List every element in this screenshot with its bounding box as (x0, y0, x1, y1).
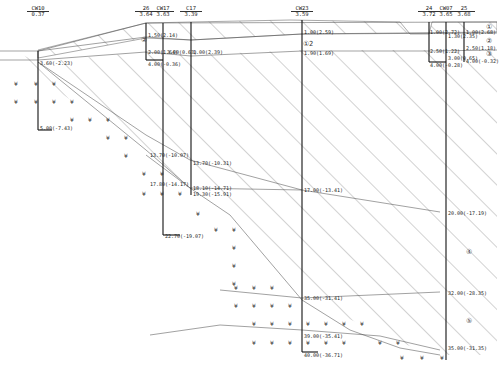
svg-text:¥: ¥ (214, 226, 218, 233)
depth-label: 4.00(-0.28) (430, 62, 463, 68)
depth-label: 22.70(-19.07) (165, 233, 204, 239)
depth-label: 13.70(-10.31) (193, 160, 232, 166)
depth-label: 4.00(-0.32) (466, 58, 499, 64)
svg-text:¥: ¥ (234, 284, 238, 291)
svg-text:¥: ¥ (420, 354, 424, 361)
svg-text:¥: ¥ (34, 98, 38, 105)
depth-label: 35.00(-31.41) (304, 295, 343, 301)
svg-text:¥: ¥ (52, 98, 56, 105)
depth-label: 1.00(2.68) (466, 29, 496, 35)
depth-label: 1.90(1.69) (304, 50, 334, 56)
svg-text:¥: ¥ (270, 284, 274, 291)
depth-label: 4.00(-0.36) (148, 61, 181, 67)
borehole-elevation: 3.63 (152, 11, 174, 18)
depth-label: 17.00(-13.41) (304, 187, 343, 193)
depth-label: 1.00(2.39) (193, 49, 223, 55)
svg-text:¥: ¥ (342, 320, 346, 327)
layer-label: ④ (466, 248, 472, 256)
svg-text:¥: ¥ (306, 320, 310, 327)
borehole-elevation: 3.68 (453, 11, 475, 18)
svg-text:¥: ¥ (70, 98, 74, 105)
svg-text:¥: ¥ (160, 170, 164, 177)
svg-text:¥: ¥ (142, 190, 146, 197)
borehole-elevation: 3.39 (180, 11, 202, 18)
svg-text:¥: ¥ (378, 339, 382, 346)
depth-label: 17.80(-14.17) (150, 181, 189, 187)
layer-label: ② (141, 36, 147, 44)
svg-text:¥: ¥ (142, 170, 146, 177)
svg-text:¥: ¥ (306, 339, 310, 346)
depth-label: 1.50(2.14) (148, 32, 178, 38)
layer-label: ①2 (303, 40, 313, 48)
svg-text:¥: ¥ (270, 320, 274, 327)
svg-text:¥: ¥ (34, 80, 38, 87)
svg-text:¥: ¥ (52, 80, 56, 87)
borehole-elevation: 3.59 (291, 11, 313, 18)
layer-label: ⑤ (466, 317, 472, 325)
svg-text:¥: ¥ (324, 320, 328, 327)
svg-text:¥: ¥ (252, 320, 256, 327)
depth-label: 19.30(-15.91) (193, 191, 232, 197)
svg-text:¥: ¥ (106, 116, 110, 123)
depth-label: 39.00(-35.41) (304, 333, 343, 339)
layer-label: ② (486, 37, 492, 45)
svg-text:¥: ¥ (252, 284, 256, 291)
depth-label: 2.50(1.18) (466, 45, 496, 51)
depth-label: 3.60(-2.23) (40, 60, 73, 66)
svg-text:¥: ¥ (324, 339, 328, 346)
svg-text:¥: ¥ (288, 320, 292, 327)
svg-text:¥: ¥ (178, 190, 182, 197)
svg-text:¥: ¥ (160, 190, 164, 197)
svg-text:¥: ¥ (234, 302, 238, 309)
svg-text:¥: ¥ (288, 339, 292, 346)
svg-text:¥: ¥ (106, 134, 110, 141)
svg-text:¥: ¥ (252, 339, 256, 346)
svg-text:¥: ¥ (196, 210, 200, 217)
svg-text:¥: ¥ (70, 116, 74, 123)
svg-text:¥: ¥ (288, 302, 292, 309)
svg-text:¥: ¥ (88, 116, 92, 123)
svg-text:¥: ¥ (14, 80, 18, 87)
depth-label: 5.00(-7.43) (40, 125, 73, 131)
depth-label: 32.00(-28.35) (448, 290, 487, 296)
svg-text:¥: ¥ (252, 302, 256, 309)
svg-text:¥: ¥ (396, 339, 400, 346)
svg-text:¥: ¥ (360, 320, 364, 327)
svg-text:¥: ¥ (232, 244, 236, 251)
svg-text:¥: ¥ (440, 354, 444, 361)
svg-text:¥: ¥ (270, 339, 274, 346)
depth-label: 40.00(-36.71) (304, 352, 343, 358)
svg-text:¥: ¥ (124, 134, 128, 141)
depth-label: 2.50(1.22) (430, 48, 460, 54)
borehole-elevation: 0.37 (27, 11, 49, 18)
svg-text:¥: ¥ (124, 152, 128, 159)
depth-label: 1.00(2.59) (304, 29, 334, 35)
depth-label: 13.70(-10.07) (150, 152, 189, 158)
svg-text:¥: ¥ (270, 302, 274, 309)
svg-text:¥: ¥ (342, 339, 346, 346)
depth-label: 20.00(-17.19) (448, 210, 487, 216)
svg-text:¥: ¥ (232, 262, 236, 269)
depth-label: 35.00(-31.35) (448, 345, 487, 351)
svg-text:¥: ¥ (400, 354, 404, 361)
layer-label: ③ (486, 50, 492, 58)
svg-text:¥: ¥ (14, 98, 18, 105)
svg-text:¥: ¥ (232, 226, 236, 233)
